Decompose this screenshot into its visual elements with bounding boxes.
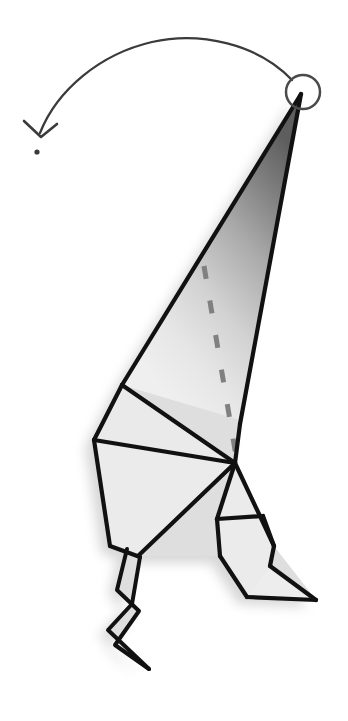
crease-ankle-left (217, 519, 220, 556)
curved-fold-arrow (24, 38, 292, 154)
panel-upper-body-shaded (122, 94, 301, 420)
origami-diagram-canvas: Origami instructional diagram of a folde… (0, 0, 348, 721)
apex-pivot-circle (286, 75, 320, 109)
crease-foot-bottom (247, 597, 316, 600)
arrow-arc-path (40, 38, 292, 133)
arrow-tail-dot (34, 149, 39, 154)
crease-thigh-inner (217, 516, 263, 519)
origami-figure-svg (0, 0, 348, 721)
